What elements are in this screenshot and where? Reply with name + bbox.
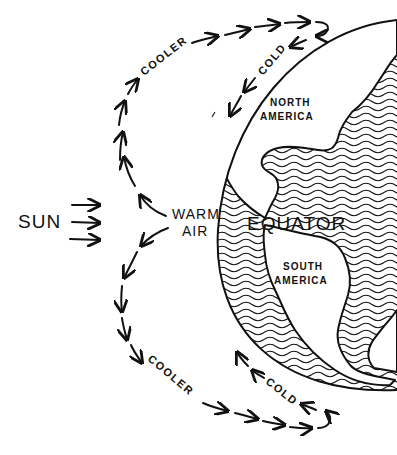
svg-text:SOUTH: SOUTH — [283, 261, 323, 272]
circulation-diagram: SUN WARM AIR EQUATOR NORTH AMERICA SOUTH… — [0, 0, 397, 455]
sun-arrow-2 — [72, 222, 100, 223]
cold-bottom-label: COLD — [264, 375, 301, 407]
svg-text:AMERICA: AMERICA — [274, 275, 328, 286]
cooler-top-label: COOLER — [138, 34, 190, 78]
sun-label: SUN — [18, 211, 61, 232]
svg-text:AMERICA: AMERICA — [260, 111, 314, 122]
equator-label: EQUATOR — [247, 213, 346, 234]
cooler-bottom-label: COOLER — [146, 352, 197, 397]
svg-text:AIR: AIR — [182, 223, 208, 239]
svg-text:NORTH: NORTH — [270, 97, 311, 108]
sun-group: SUN — [18, 205, 100, 240]
svg-text:WARM: WARM — [172, 206, 220, 222]
sun-arrow-3 — [70, 239, 100, 240]
warm-air-label: WARM AIR — [172, 206, 220, 239]
cold-top-label: COLD — [255, 41, 288, 77]
